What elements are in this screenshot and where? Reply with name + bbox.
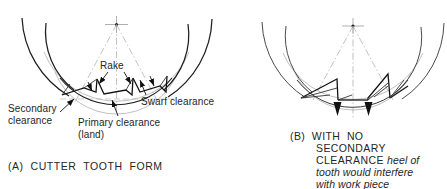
label-primary-clearance: Primary clearance (land) (78, 117, 160, 140)
figure-canvas: Rake Swarf clearance Secondary clearance… (0, 0, 447, 189)
cutter-body-arcs-a (22, 18, 212, 97)
leader-rake-right (124, 72, 131, 84)
leader-rake-left (99, 72, 108, 84)
caption-b-italic3: with work piece (290, 178, 389, 189)
leader-swarf-clearance (140, 80, 146, 95)
caption-b-line1: (B) WITH NO (290, 130, 363, 142)
caption-b-italic1: heel of (387, 154, 419, 166)
caption-diagram-b: (B) WITH NOSECONDARYCLEARANCE heel oftoo… (290, 130, 419, 189)
leader-primary-clearance (112, 100, 118, 116)
diagram-b-group (262, 18, 444, 118)
label-secondary-clearance: Secondary clearance (8, 103, 57, 126)
caption-diagram-a: (A) CUTTER TOOTH FORM (8, 160, 163, 172)
label-rake: Rake (100, 60, 124, 72)
radial-construction-b (313, 26, 393, 118)
caption-b-line2: SECONDARY (290, 142, 386, 154)
label-swarf-clearance: Swarf clearance (141, 96, 214, 108)
caption-b-italic2: tooth would interfere (290, 166, 413, 178)
leader-secondary-clearance (60, 99, 74, 112)
leader-land-right (150, 76, 154, 86)
caption-b-line3: CLEARANCE (290, 154, 387, 166)
tooth-envelope-arc-b (297, 80, 408, 107)
